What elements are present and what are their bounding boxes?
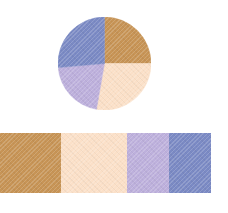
pie-chart [58, 17, 151, 110]
pie-chart-svg [58, 17, 151, 110]
pie-slice-slate-blue[interactable] [58, 17, 104, 68]
swatch-texture-overlay [169, 133, 211, 193]
pie-slice-cream-peach[interactable] [96, 64, 151, 111]
swatch-texture-overlay [61, 133, 127, 193]
pie-slice-camel-tan[interactable] [105, 17, 152, 64]
swatch-light-violet[interactable] [127, 133, 169, 193]
swatch-cream-peach[interactable] [61, 133, 127, 193]
swatch-camel-tan[interactable] [0, 133, 61, 193]
color-swatch-bar [0, 133, 211, 193]
swatch-texture-overlay [127, 133, 169, 193]
pie-slices [58, 17, 151, 110]
figure-root [0, 0, 228, 213]
swatch-texture-overlay [0, 133, 61, 193]
pie-slice-light-violet[interactable] [58, 64, 104, 110]
swatch-slate-blue[interactable] [169, 133, 211, 193]
